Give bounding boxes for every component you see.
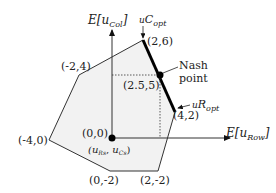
vertex-label-4-2: (4,2): [173, 110, 199, 121]
nash-annotation-line: [163, 67, 178, 73]
vertex-label-neg2-4: (-2,4): [61, 61, 91, 72]
vertex-label-0-neg2: (0,-2): [89, 175, 119, 186]
vertex-label-2-6: (2,6): [147, 36, 173, 47]
nash-annotation-line1: Nash: [179, 60, 208, 71]
feasible-region-diagram: [0, 0, 276, 193]
origin-sublabel: (uRs, uCs): [88, 145, 130, 156]
r-opt-arrow: [178, 105, 190, 108]
origin-label: (0,0): [82, 128, 108, 139]
nash-point: [157, 72, 164, 79]
y-axis-label: E[uCol]: [88, 14, 127, 29]
vertex-label-neg4-0: (-4,0): [18, 135, 48, 146]
origin-point: [109, 135, 116, 142]
c-opt-label: uCopt: [139, 14, 166, 28]
vertex-label-2-neg2: (2,-2): [140, 175, 170, 186]
nash-point-label: (2.5,5): [123, 80, 160, 91]
x-axis-label: E[uRow]: [226, 127, 270, 142]
nash-annotation-line2: point: [179, 73, 208, 84]
